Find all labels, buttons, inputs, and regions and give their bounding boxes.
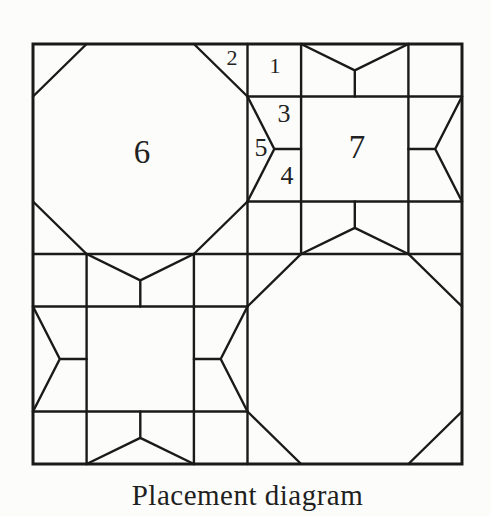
bl-star-point-bottom bbox=[87, 412, 194, 465]
octagon-6-cut-bottom-left bbox=[33, 202, 87, 255]
octagon-6-cut-top-right bbox=[194, 44, 248, 97]
tr-star-point-top bbox=[301, 44, 408, 97]
piece-label-7: 7 bbox=[349, 131, 366, 164]
octagon-br-cut-bottom-left bbox=[248, 412, 302, 465]
bl-star-point-right bbox=[194, 307, 248, 412]
figure-caption: Placement diagram bbox=[33, 479, 462, 512]
piece-label-5: 5 bbox=[255, 135, 268, 161]
octagon-br-cut-bottom-right bbox=[408, 412, 462, 465]
octagon-br-cut-top-left bbox=[248, 254, 302, 307]
piece-label-4: 4 bbox=[281, 163, 294, 189]
piece-label-3: 3 bbox=[278, 101, 291, 127]
octagon-br-cut-top-right bbox=[408, 254, 462, 307]
octagon-6-cut-top-left bbox=[33, 44, 87, 97]
bl-star-point-top bbox=[87, 254, 194, 307]
piece-label-1: 1 bbox=[270, 55, 281, 77]
piece-label-6: 6 bbox=[134, 136, 151, 169]
tr-star-point-right bbox=[408, 97, 462, 202]
placement-diagram bbox=[0, 0, 491, 516]
page: 1 2 3 4 5 6 7 Placement diagram bbox=[0, 0, 491, 516]
tr-star-point-bottom bbox=[301, 202, 408, 255]
octagon-br-corner-cuts bbox=[248, 254, 463, 464]
piece-label-2: 2 bbox=[227, 47, 238, 69]
bl-star-point-left bbox=[33, 307, 87, 412]
bl-block-star-points bbox=[33, 254, 248, 464]
block-grid-lines bbox=[33, 44, 462, 464]
octagon-6-cut-bottom-right bbox=[194, 202, 248, 255]
